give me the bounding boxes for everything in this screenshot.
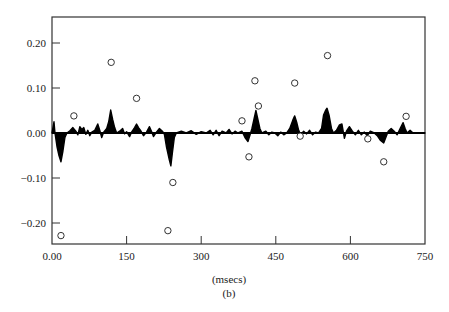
- x-tick-label: 0.00: [42, 250, 62, 262]
- sample-point: [297, 133, 303, 139]
- sample-point: [381, 159, 387, 165]
- figure-caption: (b): [223, 287, 236, 300]
- sample-points-series: [58, 52, 410, 238]
- sample-point: [255, 103, 261, 109]
- x-tick-label: 150: [118, 250, 135, 262]
- sample-point: [133, 95, 139, 101]
- sample-point: [324, 52, 330, 58]
- sample-point: [71, 113, 77, 119]
- sample-point: [252, 78, 258, 84]
- y-tick-label: 0.10: [27, 82, 47, 94]
- x-tick-label: 300: [193, 250, 210, 262]
- x-tick-label: 450: [268, 250, 285, 262]
- sample-point: [58, 232, 64, 238]
- x-tick-label: 750: [417, 250, 434, 262]
- sample-point: [403, 113, 409, 119]
- x-axis: 0.00150300450600750: [42, 236, 433, 262]
- sample-point: [365, 136, 371, 142]
- sample-point: [292, 80, 298, 86]
- y-tick-label: −0.20: [21, 217, 47, 229]
- sample-point: [165, 227, 171, 233]
- chart: 0.200.100.00−0.10−0.20 0.001503004506007…: [0, 0, 449, 312]
- sample-point: [108, 59, 114, 65]
- y-tick-label: 0.20: [27, 37, 47, 49]
- sample-point: [239, 118, 245, 124]
- sample-point: [170, 179, 176, 185]
- y-tick-label: −0.10: [21, 172, 47, 184]
- sample-point: [246, 154, 252, 160]
- x-axis-label: (msecs): [212, 273, 247, 286]
- y-tick-label: 0.00: [27, 127, 47, 139]
- x-tick-label: 600: [342, 250, 359, 262]
